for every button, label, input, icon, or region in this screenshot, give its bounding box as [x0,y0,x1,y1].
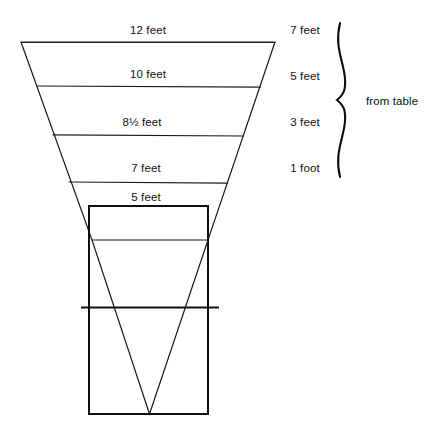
tank-rectangle [89,206,208,414]
width-5-feet-label: 5 feet [131,191,160,203]
width-8half-feet-label: 8½ feet [122,116,161,128]
from-table-label: from table [366,95,418,107]
width-10-feet-label: 10 feet [130,68,166,80]
rule-10ft [37,86,262,87]
vee-lines [92,240,208,414]
height-3-feet-label: 3 feet [290,116,319,128]
funnel-diagram-svg [0,0,437,441]
width-7-feet-label: 7 feet [131,162,160,174]
height-7-feet-label: 7 feet [290,24,319,36]
width-12-feet-label: 12 feet [130,24,166,36]
rule-7ft [69,182,229,183]
height-5-feet-label: 5 feet [290,70,319,82]
rule-8half-ft [53,135,245,136]
height-1-foot-label: 1 foot [290,162,319,174]
diagram-canvas: 12 feet 10 feet 8½ feet 7 feet 5 feet 7 … [0,0,437,441]
measurement-brace [337,23,345,177]
